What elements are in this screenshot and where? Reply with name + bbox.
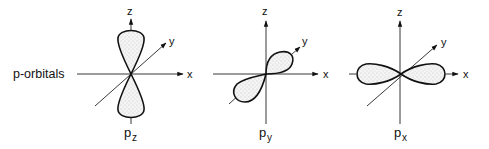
- z-axis-label: z: [397, 6, 403, 18]
- y-axis-label: y: [441, 36, 447, 48]
- diagram-title: p-orbitals: [13, 67, 64, 81]
- orbital-px: z y x p x: [349, 6, 469, 143]
- x-axis-label: x: [323, 68, 329, 80]
- y-axis-upper: [291, 47, 300, 55]
- x-axis-label: x: [187, 68, 193, 80]
- y-axis-label: y: [302, 35, 308, 47]
- z-axis-label: z: [127, 5, 133, 17]
- lobe-upper: [118, 31, 144, 75]
- lobe-right: [401, 64, 445, 84]
- p-orbitals-diagram: p-orbitals z y x p z z y x p y: [0, 0, 489, 149]
- orbital-label-pz-main: p: [124, 125, 131, 140]
- lobe-front: [234, 74, 266, 102]
- orbital-label-pz-sub: z: [132, 132, 137, 143]
- z-axis-label: z: [262, 5, 268, 17]
- lobe-left: [357, 64, 401, 84]
- orbital-label-px-main: p: [394, 125, 401, 140]
- lobe-back: [266, 52, 293, 74]
- lobe-lower: [118, 74, 144, 118]
- x-axis-label: x: [463, 68, 469, 80]
- orbital-label-py-sub: y: [267, 132, 272, 143]
- y-axis-label: y: [169, 35, 175, 47]
- orbital-pz: z y x p z: [77, 5, 193, 143]
- orbital-label-px-sub: x: [402, 132, 407, 143]
- orbital-label-py-main: p: [259, 125, 266, 140]
- orbital-py: z y x p y: [213, 5, 329, 143]
